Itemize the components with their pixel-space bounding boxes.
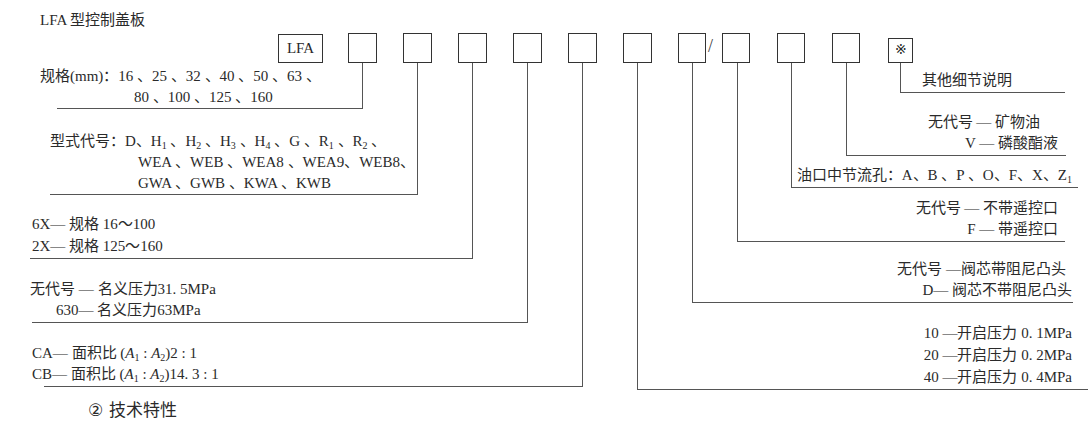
code-box-1 <box>348 33 377 63</box>
pressure-630: 630— 名义压力63MPa <box>56 301 201 319</box>
leader-h-fluid <box>846 155 1066 156</box>
series-6x: 6X— 规格 16～100 <box>32 215 155 233</box>
leader-h-orifice <box>791 187 1078 188</box>
leader-h-series <box>30 258 472 259</box>
code-box-4 <box>513 33 542 63</box>
code-slash: / <box>708 36 713 57</box>
code-box-note: ※ <box>888 38 913 63</box>
code-box-2 <box>403 33 432 63</box>
damping-with: 无代号 —阀芯带阻尼凸头 <box>897 260 1066 278</box>
remote-none: 无代号 — 不带遥控口 <box>916 199 1059 217</box>
leader-v-4 <box>527 63 528 323</box>
leader-v-3 <box>472 63 473 259</box>
damping-without: D— 阀芯不带阻尼凸头 <box>922 281 1072 299</box>
area-ratio-cb: CB— 面积比 (A1 : A2)14. 3 : 1 <box>32 365 219 383</box>
leader-v-2 <box>417 63 418 195</box>
spec-values-1: 16 、25 、32 、40 、50 、63 、 <box>118 68 321 84</box>
code-box-10 <box>832 33 860 63</box>
other-details: 其他细节说明 <box>922 71 1012 89</box>
cracking-pressure-20: 20 —开启压力 0. 2MPa <box>924 346 1072 364</box>
spec-field: 规格(mm)：16 、25 、32 、40 、50 、63 、 <box>40 67 321 85</box>
code-box-7 <box>678 33 706 63</box>
remote-with: F — 带遥控口 <box>967 220 1058 238</box>
fluid-phosphate-ester: V — 磷酸酯液 <box>965 134 1058 152</box>
series-2x: 2X— 规格 125～160 <box>32 237 163 255</box>
leader-h-type <box>50 194 417 195</box>
leader-h-cracking <box>637 389 1088 390</box>
leader-h-pressure <box>32 322 527 323</box>
section-heading-tech-specs: ② 技术特性 <box>88 396 177 421</box>
code-box-3 <box>458 33 487 63</box>
code-box-prefix: LFA <box>278 34 323 63</box>
pressure-default: 无代号 — 名义压力31. 5MPa <box>30 280 216 298</box>
leader-v-10 <box>846 63 847 155</box>
fluid-mineral-oil: 无代号 — 矿物油 <box>928 113 1041 131</box>
leader-h-spec <box>57 108 362 109</box>
type-code-label: 型式代号： <box>50 133 125 149</box>
area-ratio-ca: CA— 面积比 (A1 : A2)2 : 1 <box>32 344 197 362</box>
leader-v-note <box>900 63 901 92</box>
code-box-8 <box>722 33 750 63</box>
cracking-pressure-40: 40 —开启压力 0. 4MPa <box>924 368 1072 386</box>
code-box-6 <box>623 33 652 63</box>
leader-v-6 <box>637 63 638 389</box>
type-code-field: 型式代号：D、H1 、H2 、H3 、H4 、G 、R1 、R2 、 <box>50 132 386 150</box>
leader-h-area-ratio <box>44 386 582 387</box>
code-box-5 <box>568 33 597 63</box>
code-box-9 <box>777 33 805 63</box>
type-code-values-3: GWA 、GWB 、KWA 、KWB <box>138 174 331 192</box>
leader-v-1 <box>362 63 363 109</box>
leader-v-9 <box>791 63 792 187</box>
type-code-values-1: D、H1 、H2 、H3 、H4 、G 、R1 、R2 、 <box>125 133 386 149</box>
type-code-values-2: WEA 、WEB 、WEA8 、WEA9、WEB8、 <box>138 153 415 171</box>
leader-h-remote <box>737 241 1065 242</box>
leader-h-damping <box>692 302 1073 303</box>
leader-v-5 <box>582 63 583 387</box>
orifice-options: 油口中节流孔：A、B 、P 、O、F、X、Z1 <box>797 166 1072 184</box>
leader-h-note <box>900 92 1065 93</box>
spec-label: 规格(mm)： <box>40 68 118 84</box>
diagram-title: LFA 型控制盖板 <box>40 8 145 29</box>
leader-v-8 <box>737 63 738 241</box>
cracking-pressure-10: 10 —开启压力 0. 1MPa <box>924 324 1072 342</box>
spec-values-2: 80 、100 、125 、160 <box>134 88 273 106</box>
leader-v-7 <box>692 63 693 303</box>
